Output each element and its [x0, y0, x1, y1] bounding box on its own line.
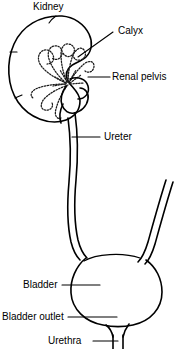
- urinary-tract-diagram: Kidney Calyx Renal pelvis Ureter Bladder…: [0, 0, 176, 349]
- bladder-dome-line: [84, 254, 140, 261]
- label-kidney: Kidney: [33, 1, 64, 12]
- renal-pelvis-lower: [60, 104, 63, 123]
- ureter-left-lateral: [75, 113, 87, 258]
- ureter-right-lateral: [145, 182, 173, 264]
- leader-line-calyx: [78, 32, 113, 57]
- label-bladder-outlet: Bladder outlet: [2, 311, 64, 322]
- label-ureter: Ureter: [104, 131, 132, 142]
- label-bladder: Bladder: [23, 279, 57, 290]
- anatomy-drawing: [0, 0, 176, 349]
- label-renal-pelvis: Renal pelvis: [112, 71, 166, 82]
- label-calyx: Calyx: [118, 25, 143, 36]
- label-urethra: Urethra: [48, 335, 81, 346]
- kidney-notch-lower: [15, 95, 22, 98]
- calyx-tick-5: [70, 83, 83, 84]
- bladder-outline: [71, 258, 162, 327]
